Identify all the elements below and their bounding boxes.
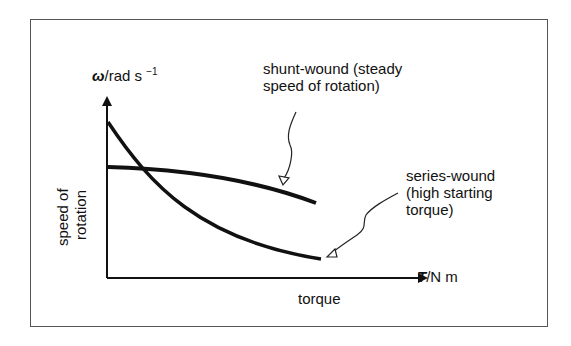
shunt-pointer-arrow: [279, 112, 296, 185]
series-label-line1: series-wound: [406, 167, 495, 185]
series-label-line3: torque): [406, 201, 454, 219]
y-quantity-line1: speed of: [54, 188, 72, 246]
x-axis: [107, 273, 428, 283]
y-axis-label: ω/rad s −1: [92, 66, 158, 84]
shunt-wound-curve: [108, 167, 316, 203]
x-quantity-label: torque: [298, 290, 341, 308]
series-pointer-arrow: [327, 193, 398, 257]
y-quantity-line2: rotation: [72, 190, 90, 240]
series-label-line2: (high starting: [406, 184, 493, 202]
shunt-label-line1: shunt-wound (steady: [263, 60, 402, 78]
x-axis-label: T/N m: [417, 268, 458, 285]
shunt-label-line2: speed of rotation): [263, 77, 380, 95]
